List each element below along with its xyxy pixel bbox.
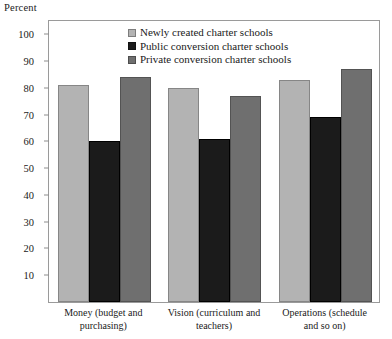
legend-item: Private conversion charter schools bbox=[128, 53, 291, 67]
legend-label: Private conversion charter schools bbox=[140, 53, 291, 67]
x-tick-label: Vision (curriculum and teachers) bbox=[159, 306, 270, 332]
bar-chart: Percent 102030405060708090100 Money (bud… bbox=[0, 0, 392, 339]
y-axis-title: Percent bbox=[4, 2, 37, 13]
bar bbox=[279, 80, 310, 302]
bar bbox=[199, 139, 230, 302]
bar bbox=[58, 85, 89, 302]
y-tick-label: 50 bbox=[24, 163, 35, 174]
legend-swatch-icon bbox=[128, 42, 136, 50]
y-axis: 102030405060708090100 bbox=[0, 20, 44, 303]
y-tick-label: 20 bbox=[24, 243, 35, 254]
x-tick-label: Operations (schedule and so on) bbox=[269, 306, 380, 332]
y-tick-label: 60 bbox=[24, 136, 35, 147]
y-tick-label: 70 bbox=[24, 109, 35, 120]
x-tick-label: Money (budget and purchasing) bbox=[48, 306, 159, 332]
y-tick-label: 30 bbox=[24, 216, 35, 227]
legend: Newly created charter schoolsPublic conv… bbox=[128, 26, 291, 67]
x-axis: Money (budget and purchasing)Vision (cur… bbox=[48, 306, 380, 339]
legend-swatch-icon bbox=[128, 56, 136, 64]
legend-label: Newly created charter schools bbox=[140, 26, 273, 40]
bar bbox=[89, 141, 120, 302]
bar bbox=[341, 69, 372, 302]
y-tick-label: 100 bbox=[18, 29, 34, 40]
bar bbox=[310, 117, 341, 302]
legend-item: Public conversion charter schools bbox=[128, 40, 291, 54]
bar bbox=[230, 96, 261, 302]
y-tick-label: 80 bbox=[24, 82, 35, 93]
legend-label: Public conversion charter schools bbox=[140, 40, 288, 54]
y-tick-label: 90 bbox=[24, 56, 35, 67]
legend-swatch-icon bbox=[128, 29, 136, 37]
y-tick-label: 40 bbox=[24, 189, 35, 200]
bar bbox=[120, 77, 151, 302]
y-tick-label: 10 bbox=[24, 270, 35, 281]
legend-item: Newly created charter schools bbox=[128, 26, 291, 40]
bar bbox=[168, 88, 199, 302]
